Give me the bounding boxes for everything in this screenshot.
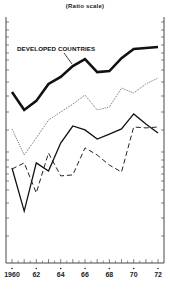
line-chart: 1960626466687072 DEVELOPED COUNTRIES xyxy=(0,0,170,291)
frame-border xyxy=(6,17,164,263)
x-label-dot xyxy=(109,268,111,270)
developed-countries-line xyxy=(12,47,158,110)
x-label-dot xyxy=(133,268,135,270)
x-label-dot xyxy=(11,268,13,270)
x-label-dot xyxy=(36,268,38,270)
x-axis-labels: 1960626466687072 xyxy=(4,268,162,278)
x-tick-label: 68 xyxy=(105,271,113,278)
label-leader-line xyxy=(64,53,72,64)
x-tick-label: 62 xyxy=(32,271,40,278)
x-label-dot xyxy=(157,268,159,270)
x-tick-label: 66 xyxy=(81,271,89,278)
x-tick-label: 64 xyxy=(57,271,65,278)
x-label-dot xyxy=(84,268,86,270)
dashed-series-line xyxy=(12,127,158,193)
thin-solid-series-line xyxy=(12,114,158,211)
x-tick-label: 72 xyxy=(154,271,162,278)
x-tick-label: 1960 xyxy=(4,271,20,278)
plot-frame xyxy=(6,17,164,263)
series-lines xyxy=(12,47,158,211)
developed-countries-label: DEVELOPED COUNTRIES xyxy=(17,45,95,52)
x-label-dot xyxy=(60,268,62,270)
x-tick-label: 70 xyxy=(130,271,138,278)
